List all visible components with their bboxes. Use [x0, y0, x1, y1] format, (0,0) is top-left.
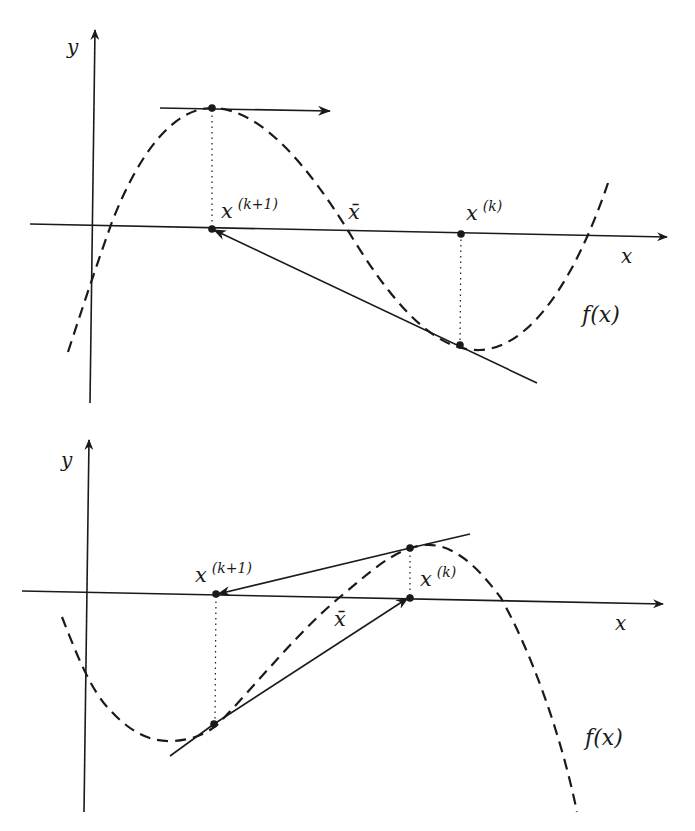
top-horizontal-tangent-arrow: [160, 108, 330, 111]
top-dotted-projection-k: [460, 234, 461, 344]
top-point-x-k: [457, 230, 465, 238]
bottom-x-label: x: [615, 611, 626, 635]
bottom-upper-tangent-line: [410, 534, 470, 548]
top-y-axis: [90, 30, 95, 403]
newton-method-diagrams: y x x (k+1) x̄ x (k) f(x): [0, 0, 695, 831]
bottom-point-x-k: [406, 594, 414, 602]
bottom-point-x-k1: [212, 590, 220, 598]
bottom-label-x-k1: x (k+1): [195, 560, 252, 587]
top-x-label: x: [621, 244, 632, 268]
top-tangent-line-arrow: [214, 230, 537, 383]
bottom-y-axis: [84, 440, 89, 812]
bottom-label-x-bar: x̄: [334, 607, 346, 631]
bottom-function-label: f(x): [583, 725, 623, 750]
top-point-f-x-k: [456, 341, 464, 349]
bottom-dotted-projection-k1: [215, 596, 216, 722]
bottom-label-x-k: x (k): [420, 564, 456, 591]
bottom-lower-tangent-arrow: [214, 598, 408, 724]
top-point-peak: [208, 104, 216, 112]
bottom-function-curve: [62, 545, 577, 812]
bottom-figure: y x x (k+1) x̄ x (k) f(x): [22, 440, 663, 812]
top-label-x-bar: x̄: [348, 200, 360, 224]
top-point-x-k1: [208, 225, 216, 233]
top-y-label: y: [66, 35, 79, 59]
bottom-x-axis: [22, 591, 663, 604]
bottom-point-f-x-k1: [210, 720, 218, 728]
top-label-x-k1: x (k+1): [221, 196, 278, 223]
bottom-y-label: y: [60, 448, 73, 472]
top-figure: y x x (k+1) x̄ x (k) f(x): [30, 30, 667, 403]
top-function-label: f(x): [580, 302, 620, 327]
bottom-point-f-x-k: [406, 544, 414, 552]
top-label-x-k: x (k): [466, 198, 502, 225]
